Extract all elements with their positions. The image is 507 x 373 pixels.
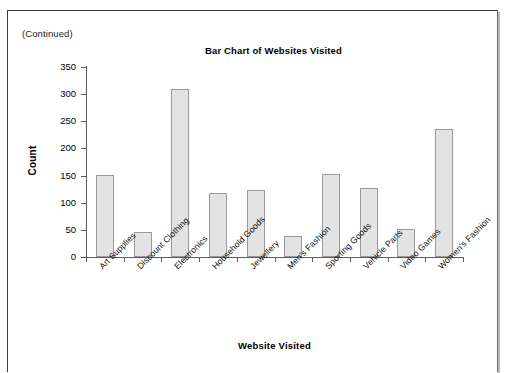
y-axis-tick bbox=[81, 203, 86, 204]
y-axis-tick bbox=[81, 176, 86, 177]
y-axis-tick bbox=[81, 148, 86, 149]
x-axis-tick bbox=[350, 257, 351, 262]
x-axis-tick bbox=[86, 257, 87, 262]
y-axis-tick-label: 100 bbox=[36, 198, 76, 208]
bar bbox=[322, 174, 340, 257]
document-page: (Continued) Bar Chart of Websites Visite… bbox=[0, 0, 507, 373]
x-axis-tick bbox=[463, 257, 464, 262]
y-axis-tick-label: 250 bbox=[36, 116, 76, 126]
y-axis-tick-label: 0 bbox=[36, 252, 76, 262]
x-axis-tick bbox=[425, 257, 426, 262]
y-axis-tick-label: 150 bbox=[36, 171, 76, 181]
y-axis-tick-label: 50 bbox=[36, 225, 76, 235]
y-axis-tick bbox=[81, 121, 86, 122]
bar-chart-plot-area: Count Website Visited 050100150200250300… bbox=[0, 0, 507, 373]
x-axis-tick bbox=[161, 257, 162, 262]
x-axis-tick bbox=[312, 257, 313, 262]
bar bbox=[209, 193, 227, 257]
x-axis-tick bbox=[124, 257, 125, 262]
x-axis-title: Website Visited bbox=[86, 340, 463, 351]
x-axis-tick bbox=[388, 257, 389, 262]
y-axis-line bbox=[86, 66, 87, 258]
y-axis-tick-label: 350 bbox=[36, 62, 76, 72]
x-axis-tick bbox=[275, 257, 276, 262]
y-axis-tick-label: 300 bbox=[36, 89, 76, 99]
bar bbox=[96, 175, 114, 257]
y-axis-tick bbox=[81, 94, 86, 95]
y-axis-tick bbox=[81, 67, 86, 68]
y-axis-tick bbox=[81, 230, 86, 231]
y-axis-tick-label: 200 bbox=[36, 143, 76, 153]
x-axis-tick bbox=[199, 257, 200, 262]
x-axis-tick bbox=[237, 257, 238, 262]
